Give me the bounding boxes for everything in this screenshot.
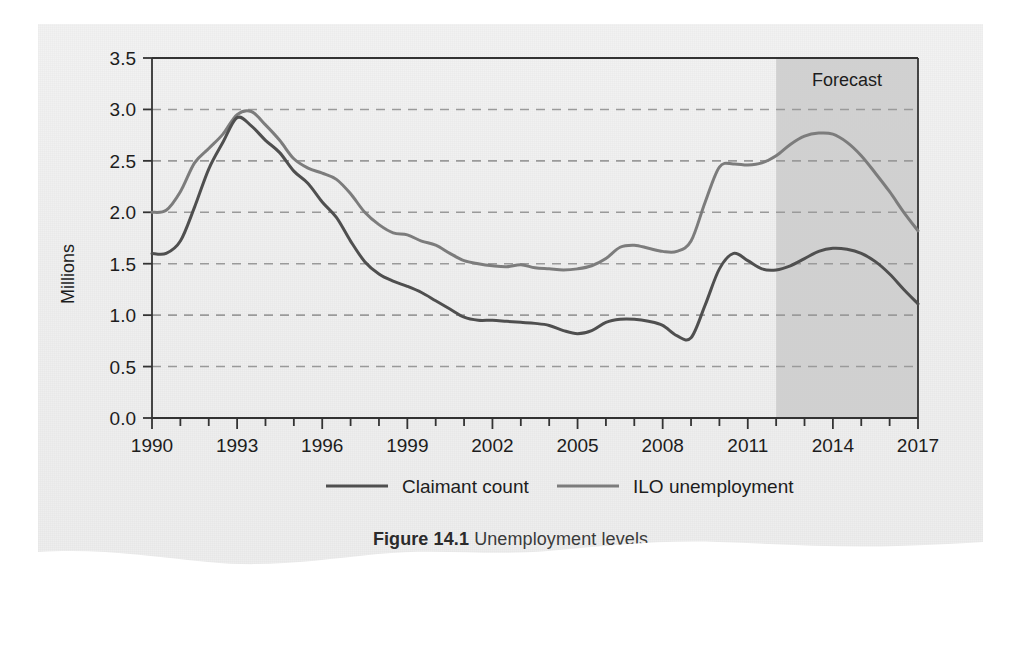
chart-legend: Claimant countILO unemployment bbox=[326, 476, 794, 497]
y-tick-label: 1.5 bbox=[110, 254, 136, 275]
y-tick-label: 0.5 bbox=[110, 357, 136, 378]
x-tick-label: 1996 bbox=[301, 435, 343, 456]
figure-title: Unemployment levels bbox=[474, 529, 648, 549]
x-tick-label: 2005 bbox=[556, 435, 598, 456]
x-tick-label: 2008 bbox=[642, 435, 684, 456]
y-axis-title: Millions bbox=[58, 244, 78, 304]
forecast-annotation-label: Forecast bbox=[812, 70, 882, 90]
y-tick-label: 3.5 bbox=[110, 48, 136, 69]
chart-container: 0.00.51.01.52.02.53.03.5 199019931996199… bbox=[38, 24, 983, 584]
x-tick-label: 2014 bbox=[812, 435, 855, 456]
x-tick-label: 1993 bbox=[216, 435, 258, 456]
y-axis-ticks bbox=[143, 58, 152, 418]
figure-page: 0.00.51.01.52.02.53.03.5 199019931996199… bbox=[0, 0, 1011, 645]
figure-number: Figure 14.1 bbox=[373, 529, 469, 549]
x-tick-label: 2002 bbox=[471, 435, 513, 456]
y-tick-label: 2.5 bbox=[110, 151, 136, 172]
legend-label-claimant-count: Claimant count bbox=[402, 476, 529, 497]
x-axis-ticks bbox=[152, 418, 918, 429]
y-tick-label: 0.0 bbox=[110, 408, 136, 429]
x-tick-label: 2011 bbox=[727, 435, 768, 456]
forecast-shaded-region bbox=[776, 58, 918, 418]
x-tick-label: 1990 bbox=[131, 435, 173, 456]
figure-caption: Figure 14.1 Unemployment levels Source: … bbox=[38, 529, 983, 573]
x-axis-tick-labels: 1990199319961999200220052008201120142017 bbox=[131, 435, 939, 456]
unemployment-line-chart: 0.00.51.01.52.02.53.03.5 199019931996199… bbox=[38, 24, 983, 524]
figure-source: Source: Office of National Statistics bbox=[38, 555, 983, 573]
y-tick-label: 2.0 bbox=[110, 202, 136, 223]
y-tick-label: 3.0 bbox=[110, 99, 136, 120]
y-axis-tick-labels: 0.00.51.01.52.02.53.03.5 bbox=[110, 48, 136, 429]
scanned-page-sheet: 0.00.51.01.52.02.53.03.5 199019931996199… bbox=[38, 24, 983, 584]
legend-label-ilo-unemployment: ILO unemployment bbox=[633, 476, 794, 497]
x-tick-label: 2017 bbox=[897, 435, 939, 456]
figure-caption-title-line: Figure 14.1 Unemployment levels bbox=[38, 529, 983, 550]
x-tick-label: 1999 bbox=[386, 435, 428, 456]
y-tick-label: 1.0 bbox=[110, 305, 136, 326]
